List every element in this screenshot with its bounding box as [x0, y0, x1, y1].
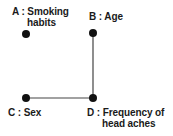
- node-c-label-line1: C : Sex: [8, 107, 41, 118]
- node-a-label-line1: A : Smoking: [12, 6, 69, 17]
- node-b-label-line1: B : Age: [89, 11, 123, 22]
- node-a: [22, 30, 30, 38]
- node-d-label-line2: head aches: [87, 118, 164, 129]
- node-c-label: C : Sex: [8, 107, 41, 118]
- node-b-label: B : Age: [89, 11, 123, 22]
- node-d-label-line1: D : Frequency of: [87, 107, 164, 118]
- node-d: [89, 94, 97, 102]
- node-c: [22, 94, 30, 102]
- node-d-label: D : Frequency of head aches: [87, 107, 164, 129]
- node-a-label: A : Smoking habits: [12, 6, 69, 28]
- node-a-label-line2: habits: [12, 17, 69, 28]
- node-b: [89, 29, 97, 37]
